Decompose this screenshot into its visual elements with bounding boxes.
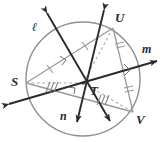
point-label-s: S [11,75,18,88]
line-label-l: ℓ [32,21,37,33]
tick-su-2 [82,42,88,50]
point-label-t: T [90,84,98,97]
point-label-v: V [136,113,145,126]
point-label-u: U [115,11,124,24]
point-t-dot [81,81,84,84]
circle-outline [26,22,140,136]
tick-uv-b2 [125,90,134,92]
line-label-m: m [142,43,151,55]
line-label-n: n [60,110,67,122]
geometry-figure: S T U V ℓ m n [0,0,165,142]
chord-su [26,28,113,83]
right-angle-mark-sv [68,87,75,94]
tick-uv-b1 [124,86,133,88]
